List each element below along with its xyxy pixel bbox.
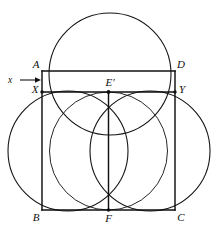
label-Y: Y: [179, 83, 187, 95]
left-circle: [8, 91, 128, 211]
vertex-dot-Y: [173, 90, 176, 93]
vertex-dot-E-prime: [107, 90, 111, 94]
label-D: D: [176, 58, 185, 70]
label-x-measure: x: [7, 75, 13, 85]
label-X: X: [31, 83, 40, 95]
geometry-diagram: x A D X Y E' B C F: [0, 0, 220, 231]
label-B: B: [33, 211, 40, 223]
label-F: F: [104, 212, 112, 224]
label-A: A: [32, 58, 40, 70]
label-E-prime: E': [104, 76, 115, 88]
figure-canvas: x A D X Y E' B C F: [0, 0, 220, 231]
x-measure-arrow-head: [35, 77, 41, 82]
label-C: C: [177, 211, 185, 223]
top-circle: [49, 13, 171, 135]
vertex-dot-X: [40, 90, 43, 93]
